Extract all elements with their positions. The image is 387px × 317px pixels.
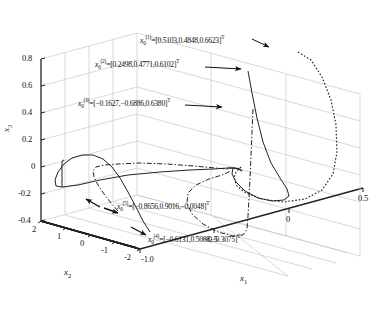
axis-label-x1: x1 [240,273,247,285]
tick-x3-1: 0.6 [22,80,32,90]
tick-x3-4: 0 [31,161,35,171]
tick-x3-3: 0.2 [22,134,32,144]
annotation-ic3: x0(3)=[−0.1627,−0.6886,0.6380]T [78,97,170,109]
trajectory-2 [232,71,289,201]
plot-svg [0,0,387,317]
tick-x2-3: -1 [101,245,108,255]
arrow-ic1 [252,39,269,47]
tick-x3-2: 0.4 [22,107,32,117]
tick-x2-1: 1 [57,231,61,241]
axis-label-x2: x2 [64,267,71,279]
tick-x1-0: -1.0 [141,254,154,264]
tick-x1-3: 0.5 [358,193,368,203]
tick-x2-0: 2 [32,224,36,234]
annotation-ic2: x0(2)=[0.2498,0.4771,0.6102]T [95,58,179,70]
arrow-ic2 [205,67,241,69]
tick-x2-4: -2 [124,252,131,262]
annotation-ic4: x0(4)=[−0.6131,0.5088,−0.3075]T [148,233,240,245]
arrow-ic5-lead [86,199,100,207]
figure-canvas: 0.8 0.6 0.4 0.2 0 -0.2 -0.4 2 1 0 -1 -2 … [0,0,387,317]
annotation-ic5: x0(5)=[−0.8656,0.9016,−0.0048]T [117,200,209,212]
tick-x2-2: 0 [80,238,84,248]
tick-x3-6: -0.4 [18,215,31,225]
trajectory-3 [187,109,253,236]
tick-x3-0: 0.8 [22,53,32,63]
trajectory-convergence-cluster [228,168,242,171]
tick-x1-2: 0 [286,214,290,224]
ticks-x2 [38,221,140,251]
axis-label-x3: x3 [1,125,13,132]
tick-x3-5: -0.2 [18,188,31,198]
annotation-ic1: x0(1)=[0.5103,0.4848,0.6623]T [140,34,224,46]
